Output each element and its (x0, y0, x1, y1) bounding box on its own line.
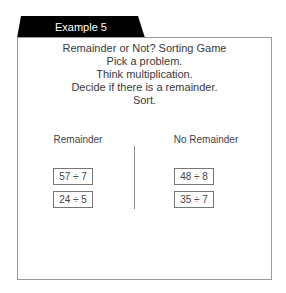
instruction-line: Decide if there is a remainder. (18, 81, 271, 94)
instruction-line: Pick a problem. (18, 55, 271, 68)
no-remainder-heading: No Remainder (146, 134, 266, 145)
remainder-heading: Remainder (28, 134, 128, 145)
problem-card[interactable]: 24 ÷ 5 (53, 191, 93, 208)
problem-card[interactable]: 57 ÷ 7 (53, 168, 93, 185)
tab-label: Example 5 (17, 16, 145, 38)
instruction-line: Think multiplication. (18, 68, 271, 81)
problem-card[interactable]: 35 ÷ 7 (174, 191, 214, 208)
game-title: Remainder or Not? Sorting Game (18, 42, 271, 55)
example-tab: Example 5 (17, 16, 145, 38)
problem-card[interactable]: 48 ÷ 8 (174, 168, 214, 185)
sorting-game-panel: Remainder or Not? Sorting Game Pick a pr… (17, 37, 272, 280)
column-divider (134, 146, 135, 209)
instruction-line: Sort. (18, 94, 271, 107)
instructions: Remainder or Not? Sorting Game Pick a pr… (18, 42, 271, 107)
